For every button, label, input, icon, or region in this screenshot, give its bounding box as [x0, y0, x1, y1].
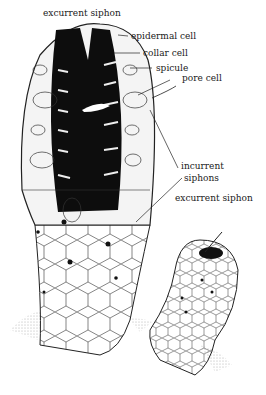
bud-osculum [199, 247, 223, 259]
spongocoel [51, 28, 122, 212]
label-spicule: spicule [156, 63, 188, 73]
label-excurrent-siphon-top: excurrent siphon [43, 8, 121, 18]
main-body-stalk [35, 225, 150, 355]
label-excurrent-siphon-bud: excurrent siphon [175, 193, 253, 203]
label-epidermal-cell: epidermal cell [131, 31, 196, 41]
label-incurrent: incurrent [181, 161, 224, 171]
bud-body [150, 240, 238, 375]
label-pore-cell: pore cell [182, 73, 222, 83]
label-siphons: siphons [184, 173, 219, 183]
label-collar-cell: collar cell [143, 48, 188, 58]
